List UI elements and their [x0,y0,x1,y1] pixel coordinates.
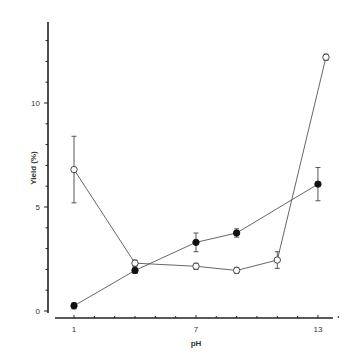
series-open [71,54,329,274]
x-tick-label: 13 [314,325,323,334]
series-line [74,57,326,270]
yield-vs-ph-chart: 05101713 Yield (%) pH [0,0,351,360]
axes: 05101713 [31,22,338,334]
filled-circle-marker [71,303,77,309]
open-circle-marker [132,260,138,266]
y-axis-label: Yield (%) [29,151,38,185]
filled-circle-marker [315,181,321,187]
y-tick-label: 10 [31,99,40,108]
open-circle-marker [71,166,77,172]
filled-circle-marker [193,239,199,245]
x-tick-label: 7 [194,325,199,334]
series-filled [71,167,321,309]
y-tick-label: 0 [36,307,41,316]
open-circle-marker [323,54,329,60]
x-axis-label: pH [191,339,202,348]
y-tick-label: 5 [36,203,41,212]
series-layer [71,54,329,309]
open-circle-marker [233,267,239,273]
open-circle-marker [274,257,280,263]
open-circle-marker [193,263,199,269]
filled-circle-marker [233,230,239,236]
filled-circle-marker [132,267,138,273]
x-tick-label: 1 [72,325,77,334]
